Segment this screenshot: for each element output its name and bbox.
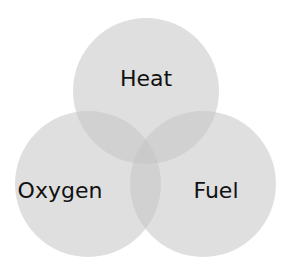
label-fuel: Fuel bbox=[193, 178, 238, 203]
label-oxygen: Oxygen bbox=[18, 178, 103, 203]
label-heat: Heat bbox=[120, 66, 173, 91]
venn-diagram: Heat Oxygen Fuel bbox=[0, 0, 290, 271]
